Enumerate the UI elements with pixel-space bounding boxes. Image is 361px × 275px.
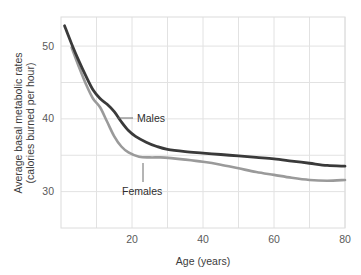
x-axis-tick-label: 40 <box>197 233 209 245</box>
chart-container: 304050 20406080 Males Females Age (years… <box>0 0 361 275</box>
x-axis-tick-label: 80 <box>339 233 351 245</box>
series-label-females: Females <box>122 185 162 197</box>
series-label-males: Males <box>137 112 165 124</box>
x-axis-tick-label: 20 <box>126 233 138 245</box>
x-axis-tick-label: 60 <box>268 233 280 245</box>
y-axis-tick-label: 40 <box>42 112 54 124</box>
y-axis-tick-label: 50 <box>42 40 54 52</box>
metabolic-rate-line-chart: 304050 20406080 Males Females Age (years… <box>0 0 361 275</box>
y-axis-tick-label: 30 <box>42 185 54 197</box>
x-axis-title: Age (years) <box>176 255 230 267</box>
chart-background <box>0 0 361 275</box>
y-axis-title-line1: Average basal metabolic rates <box>12 52 24 193</box>
y-axis-title-line2: (calories burned per hour) <box>24 63 36 184</box>
